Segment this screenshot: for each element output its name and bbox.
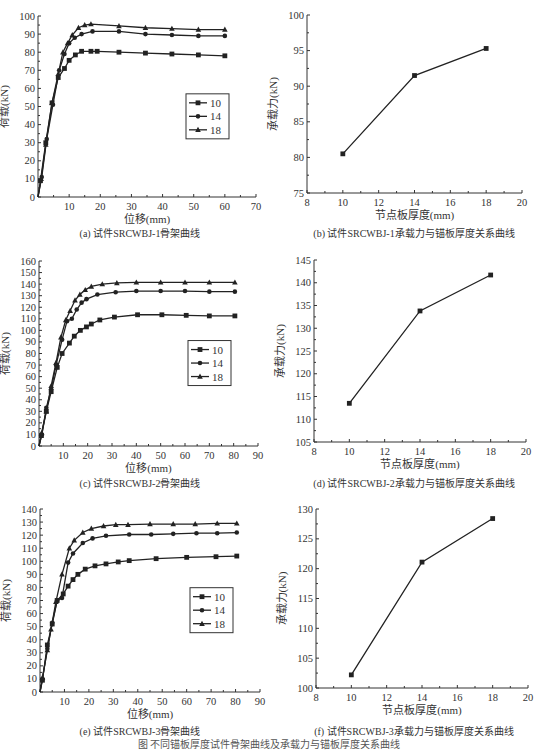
- y-tick-label: 30: [26, 406, 37, 417]
- chart-c-panel: 0102030405060708090100110120130140150160…: [0, 245, 270, 495]
- data-point: [154, 556, 159, 561]
- data-point: [90, 29, 95, 34]
- x-axis-label: 节点板厚度(mm): [380, 457, 460, 471]
- y-tick-label: 110: [296, 414, 311, 425]
- chart-a-panel: 010203040506070809010010203040506070位移(m…: [0, 0, 270, 240]
- legend-marker: [196, 100, 201, 105]
- legend-marker: [200, 608, 205, 613]
- data-point: [340, 151, 345, 156]
- y-tick-label: 20: [25, 155, 36, 166]
- chart-e-panel: 0102030405060708090100110120130140102030…: [0, 495, 270, 735]
- data-point: [79, 300, 84, 305]
- y-tick-label: 145: [295, 255, 311, 266]
- data-point: [418, 309, 423, 314]
- y-tick-label: 30: [27, 647, 38, 658]
- data-point: [70, 317, 75, 322]
- data-point: [59, 571, 65, 576]
- y-tick-label: 20: [27, 660, 38, 671]
- y-tick-label: 120: [21, 530, 37, 541]
- x-tick-label: 60: [180, 450, 191, 461]
- x-tick-label: 10: [338, 197, 349, 208]
- x-tick-label: 16: [452, 692, 463, 703]
- x-tick-label: 30: [107, 450, 118, 461]
- data-point: [234, 530, 239, 535]
- y-tick-label: 90: [27, 569, 38, 580]
- x-axis-label: 位移(mm): [127, 707, 174, 721]
- y-tick-label: 105: [295, 437, 311, 448]
- chart-f: 1001051101151201251308101214161820节点板厚度(…: [270, 495, 538, 723]
- data-point: [90, 536, 95, 541]
- y-tick-label: 95: [294, 45, 305, 56]
- legend-marker: [198, 361, 203, 366]
- y-tick-label: 140: [21, 504, 37, 515]
- data-point: [127, 558, 132, 563]
- x-tick-label: 60: [181, 696, 192, 707]
- legend-marker: [196, 114, 201, 119]
- x-tick-label: 12: [379, 446, 390, 457]
- data-point: [60, 351, 65, 356]
- y-tick-label: 80: [25, 47, 36, 58]
- data-point: [104, 562, 109, 567]
- data-point: [116, 560, 121, 565]
- y-tick-label: 60: [25, 83, 36, 94]
- y-tick-label: 130: [20, 290, 36, 301]
- chart-f-panel: 1001051101151201251308101214161820节点板厚度(…: [270, 495, 538, 735]
- x-tick-label: 10: [64, 201, 75, 212]
- data-point: [113, 290, 118, 295]
- data-point: [97, 318, 102, 323]
- y-tick-label: 130: [21, 517, 37, 528]
- y-tick-label: 50: [27, 621, 38, 632]
- figure-caption: 图 不同锚板厚度试件骨架曲线及承载力与锚板厚度关系曲线: [0, 736, 538, 751]
- data-point: [104, 533, 109, 538]
- x-tick-label: 10: [59, 696, 70, 707]
- data-point: [66, 584, 71, 589]
- series-承载力: [340, 46, 488, 156]
- data-point: [67, 58, 72, 63]
- y-tick-label: 10: [25, 173, 36, 184]
- x-tick-label: 10: [58, 450, 69, 461]
- x-axis-label: 节点板厚度(mm): [375, 208, 455, 222]
- legend-label: 18: [210, 124, 222, 136]
- data-point: [84, 325, 89, 330]
- x-tick-label: 8: [313, 692, 318, 703]
- x-tick-label: 40: [133, 696, 144, 707]
- x-tick-label: 16: [450, 446, 461, 457]
- x-tick-label: 8: [311, 446, 316, 457]
- x-tick-label: 14: [417, 692, 428, 703]
- series-承载力: [349, 516, 495, 677]
- chart-a: 010203040506070809010010203040506070位移(m…: [0, 0, 270, 225]
- legend-label: 10: [212, 344, 224, 356]
- data-point: [196, 53, 201, 58]
- y-tick-label: 40: [25, 119, 36, 130]
- data-point: [214, 554, 219, 559]
- data-point: [484, 46, 489, 51]
- y-tick-label: 130: [295, 323, 311, 334]
- data-point: [72, 334, 77, 339]
- x-tick-label: 20: [82, 450, 93, 461]
- y-axis-label: 荷载(kN): [0, 332, 12, 375]
- y-tick-label: 90: [25, 29, 36, 40]
- data-point: [62, 66, 67, 71]
- chart-a-caption: (a) 试件SRCWBJ-1骨架曲线: [40, 225, 240, 240]
- legend-label: 14: [210, 110, 222, 122]
- data-point: [184, 555, 189, 560]
- x-tick-label: 70: [251, 201, 262, 212]
- legend: 101418: [186, 94, 229, 139]
- y-tick-label: 0: [30, 192, 35, 203]
- x-tick-label: 40: [157, 201, 168, 212]
- chart-b-caption: (b) 试件SRCWBJ-1承载力与锚板厚度关系曲线: [304, 225, 524, 240]
- chart-d-panel: 1051101151201251301351401458101214161820…: [270, 245, 538, 495]
- y-tick-label: 60: [26, 371, 37, 382]
- x-tick-label: 50: [157, 696, 168, 707]
- series-line-承载力: [351, 519, 492, 675]
- legend: 101418: [188, 341, 231, 386]
- data-point: [171, 532, 176, 537]
- data-point: [53, 360, 59, 365]
- data-point: [234, 554, 239, 559]
- chart-d-caption: (d) 试件SRCWBJ-2承载力与锚板厚度关系曲线: [304, 475, 524, 490]
- chart-b-panel: 75808590951008101214161820节点板厚度(mm)承载力(k…: [270, 0, 538, 240]
- data-point: [490, 516, 495, 521]
- data-point: [75, 572, 80, 577]
- y-tick-label: 50: [25, 101, 36, 112]
- series-承载力: [347, 273, 493, 406]
